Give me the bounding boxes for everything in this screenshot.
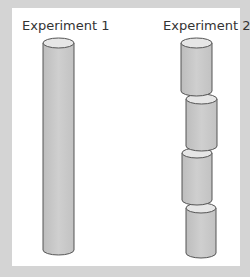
segment-2 bbox=[186, 94, 217, 151]
cylinders-diagram bbox=[0, 0, 250, 277]
segment-3 bbox=[182, 148, 212, 205]
segment-4 bbox=[186, 203, 216, 258]
experiment-1-cylinder bbox=[43, 38, 74, 255]
experiment-2-segments bbox=[181, 38, 217, 258]
segment-1 bbox=[181, 38, 212, 96]
